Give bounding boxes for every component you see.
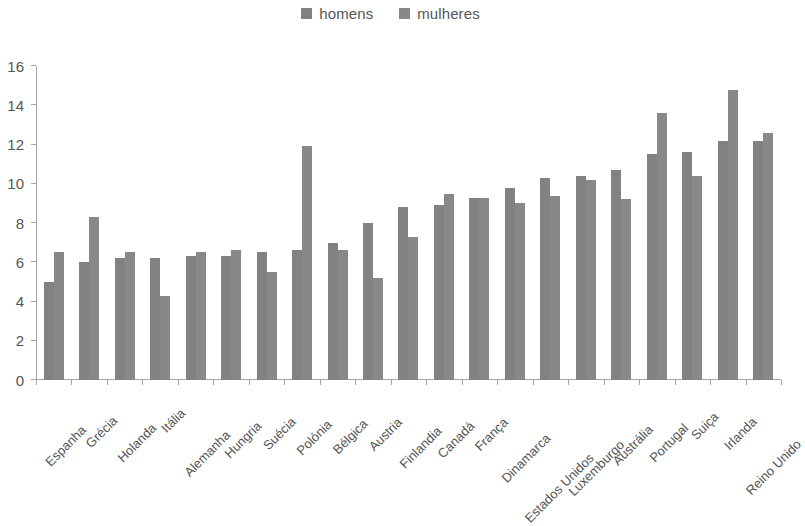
bar-group[interactable]	[675, 152, 710, 380]
bar-group[interactable]	[639, 113, 674, 380]
bar-group[interactable]	[568, 176, 603, 380]
legend-label: mulheres	[417, 6, 480, 21]
bar-mulheres[interactable]	[196, 252, 206, 380]
bar-group[interactable]	[178, 252, 213, 380]
bar-mulheres[interactable]	[515, 203, 525, 380]
bar-homens[interactable]	[292, 250, 302, 380]
bar-group[interactable]	[533, 178, 568, 380]
y-axis-tick: 10	[31, 183, 36, 184]
bar-homens[interactable]	[540, 178, 550, 380]
bar-homens[interactable]	[434, 205, 444, 380]
bar-group[interactable]	[249, 252, 284, 380]
bar-homens[interactable]	[363, 223, 373, 380]
bar-mulheres[interactable]	[479, 198, 489, 381]
y-axis-tick-label: 0	[16, 372, 24, 387]
bar-homens[interactable]	[682, 152, 692, 380]
bar-homens[interactable]	[186, 256, 196, 380]
bar-group[interactable]	[71, 217, 106, 380]
bar-group[interactable]	[604, 170, 639, 380]
bar-group[interactable]	[107, 252, 142, 380]
legend-square-icon	[399, 8, 410, 19]
bar-mulheres[interactable]	[586, 180, 596, 380]
y-axis-tick: 16	[31, 65, 36, 66]
bar-mulheres[interactable]	[728, 90, 738, 380]
y-axis-tick-label: 2	[16, 333, 24, 348]
bar-homens[interactable]	[79, 262, 89, 380]
x-axis-label: Reino Unido	[796, 384, 805, 445]
bar-mulheres[interactable]	[373, 278, 383, 380]
y-axis-tick-label: 6	[16, 254, 24, 269]
bar-mulheres[interactable]	[231, 250, 241, 380]
bar-group[interactable]	[213, 250, 248, 380]
chart-legend: homensmulheres	[0, 6, 781, 21]
bar-group[interactable]	[497, 188, 532, 380]
legend-entry-mulheres[interactable]: mulheres	[399, 6, 480, 21]
y-axis-tick-label: 14	[7, 97, 24, 112]
bar-homens[interactable]	[505, 188, 515, 380]
y-axis-tick-label: 4	[16, 294, 24, 309]
bar-group[interactable]	[746, 133, 781, 380]
bar-homens[interactable]	[150, 258, 160, 380]
bar-homens[interactable]	[469, 198, 479, 381]
bar-group[interactable]	[391, 207, 426, 380]
bar-homens[interactable]	[576, 176, 586, 380]
bar-group[interactable]	[36, 252, 71, 380]
bar-homens[interactable]	[647, 154, 657, 380]
bar-mulheres[interactable]	[692, 176, 702, 380]
legend-label: homens	[319, 6, 373, 21]
y-axis-tick-label: 16	[7, 58, 24, 73]
bar-homens[interactable]	[257, 252, 267, 380]
y-axis-tick-label: 8	[16, 215, 24, 230]
bar-mulheres[interactable]	[550, 196, 560, 380]
x-axis-label-text: Reino Unido	[744, 436, 805, 497]
legend-square-icon	[301, 8, 312, 19]
x-axis-label-text: Dinamarca	[499, 430, 554, 485]
bar-homens[interactable]	[611, 170, 621, 380]
bar-homens[interactable]	[328, 243, 338, 380]
bar-mulheres[interactable]	[89, 217, 99, 380]
y-axis-tick: 14	[31, 104, 36, 105]
bar-mulheres[interactable]	[54, 252, 64, 380]
x-axis-label-text: Irlanda	[722, 414, 761, 453]
bar-mulheres[interactable]	[444, 194, 454, 380]
bar-mulheres[interactable]	[125, 252, 135, 380]
y-axis-tick-label: 10	[7, 176, 24, 191]
bar-group[interactable]	[426, 194, 461, 380]
bar-group[interactable]	[710, 90, 745, 380]
bar-mulheres[interactable]	[657, 113, 667, 380]
bar-mulheres[interactable]	[267, 272, 277, 380]
bar-homens[interactable]	[398, 207, 408, 380]
bar-group[interactable]	[462, 198, 497, 381]
bar-homens[interactable]	[221, 256, 231, 380]
x-axis-label-text: Holanda	[115, 420, 160, 465]
bar-mulheres[interactable]	[763, 133, 773, 380]
plot-area: 0246810121416	[36, 66, 781, 380]
bar-homens[interactable]	[718, 141, 728, 380]
bar-homens[interactable]	[753, 141, 763, 380]
bar-mulheres[interactable]	[338, 250, 348, 380]
bar-group[interactable]	[142, 258, 177, 380]
x-axis-label: Austria	[396, 384, 435, 423]
x-axis-label: Irlanda	[751, 384, 790, 423]
bar-mulheres[interactable]	[160, 296, 170, 380]
bar-homens[interactable]	[115, 258, 125, 380]
bar-group[interactable]	[355, 223, 390, 380]
bar-group[interactable]	[284, 146, 319, 380]
legend-entry-homens[interactable]: homens	[301, 6, 373, 21]
bar-mulheres[interactable]	[302, 146, 312, 380]
y-axis-tick: 12	[31, 144, 36, 145]
x-axis-labels: EspanhaGréciaHolandaItáliaAlemanhaHungri…	[36, 384, 781, 463]
y-axis-tick-label: 12	[7, 137, 24, 152]
x-axis-label-text: Polónia	[294, 416, 335, 457]
bar-mulheres[interactable]	[408, 237, 418, 380]
x-axis-label-text: Espanha	[43, 422, 90, 469]
y-axis-tick: 8	[31, 222, 36, 223]
x-axis-label: Dinamarca	[545, 384, 600, 439]
bar-mulheres[interactable]	[621, 199, 631, 380]
bar-group[interactable]	[320, 243, 355, 380]
bar-homens[interactable]	[44, 282, 54, 380]
